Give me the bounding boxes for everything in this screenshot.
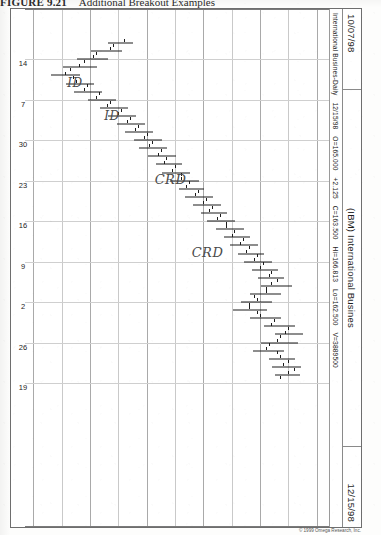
bar-high-low [193, 204, 221, 205]
ohlc-bar [250, 317, 281, 319]
ohlc-bar [261, 341, 298, 343]
ohlc-bar [244, 260, 272, 262]
ohlc-bar [179, 188, 205, 190]
bar-close-tick [263, 262, 264, 265]
ohlc-bar [207, 220, 235, 222]
bar-close-tick [147, 133, 148, 136]
ohlc-bar [264, 325, 295, 327]
bar-close-tick [167, 157, 168, 160]
quote-instrument: International Busines-Daily [333, 13, 340, 95]
bar-open-tick [257, 298, 258, 301]
quote-low: Lo=162.500 [333, 289, 340, 326]
annotation-crd-1: CRD [192, 246, 224, 261]
date-axis: 147302316922619 [11, 9, 25, 527]
gridline-vertical [25, 221, 329, 222]
bar-open-tick [135, 128, 136, 131]
bar-high-low [241, 302, 272, 303]
bar-close-tick [271, 271, 272, 274]
bar-open-tick [271, 323, 272, 326]
bar-open-tick [84, 88, 85, 91]
ohlc-bar [216, 228, 244, 230]
ohlc-bar [108, 42, 134, 44]
header-start-date: 10/07/98 [343, 9, 361, 90]
bar-open-tick [203, 201, 204, 204]
bar-close-tick [294, 368, 295, 371]
bar-high-low [233, 310, 267, 311]
credit-text: © 1999 Omega Research, Inc. [299, 528, 361, 533]
gridline-horizontal [288, 9, 289, 527]
bar-close-tick [220, 214, 221, 217]
chart-header: 10/07/98 (IBM) International Busines 12/… [342, 9, 361, 527]
ohlc-bar [156, 163, 182, 165]
bar-open-tick [110, 47, 111, 50]
bar-high-low [275, 374, 299, 375]
quote-volume: V=3889500 [333, 333, 340, 368]
bar-close-tick [269, 343, 270, 346]
bar-high-low [272, 366, 300, 367]
date-tick-label: 23 [19, 181, 27, 190]
ohlc-bar [125, 131, 153, 133]
bar-close-tick [70, 68, 71, 71]
ohlc-bar [253, 269, 279, 271]
date-tick-label: 16 [19, 221, 27, 230]
bar-close-tick [189, 181, 190, 184]
bar-open-tick [288, 371, 289, 374]
bar-open-tick [246, 250, 247, 253]
bar-high-low [253, 350, 284, 351]
bar-open-tick [150, 144, 151, 147]
quote-status-line: International Busines-Daily 12/15/98 O=1… [329, 9, 342, 527]
ohlc-bar [202, 212, 228, 214]
bar-close-tick [206, 198, 207, 201]
date-tick-label: 2 [21, 302, 25, 311]
bar-open-tick [249, 306, 250, 309]
bar-open-tick [164, 161, 165, 164]
bar-open-tick [277, 339, 278, 342]
bar-high-low [77, 59, 108, 60]
bar-high-low [250, 318, 281, 319]
ohlc-bar [63, 66, 97, 68]
quote-high: Hi=166.813 [333, 247, 340, 282]
bar-open-tick [107, 104, 108, 107]
bar-high-low [117, 123, 145, 124]
ohlc-bar [250, 293, 281, 295]
bar-high-low [185, 196, 213, 197]
bar-open-tick [93, 55, 94, 58]
bar-open-tick [209, 209, 210, 212]
ohlc-bar [233, 309, 267, 311]
bar-close-tick [280, 376, 281, 379]
bar-high-low [253, 269, 279, 270]
bar-open-tick [158, 153, 159, 156]
date-tick-label: 26 [19, 343, 27, 352]
bar-open-tick [144, 136, 145, 139]
date-tick-label: 7 [21, 100, 25, 109]
ohlc-bar [272, 366, 300, 368]
date-tick-label: 14 [19, 59, 27, 68]
ohlc-bar [88, 99, 116, 101]
bar-close-tick [249, 246, 250, 249]
header-symbol-name: (IBM) International Busines [347, 90, 358, 446]
ohlc-bar [117, 123, 145, 125]
ohlc-bar [230, 244, 258, 246]
figure-title: Additional Breakout Examples [79, 0, 215, 8]
ohlc-bar [238, 252, 264, 254]
gridline-horizontal [147, 9, 148, 527]
bar-close-tick [130, 117, 131, 120]
bar-close-tick [110, 101, 111, 104]
bar-close-tick [152, 141, 153, 144]
gridline-horizontal [203, 9, 204, 527]
price-plot-area: CRDCRDIDID 17016516015515014514013513012… [25, 9, 329, 527]
bar-open-tick [260, 314, 261, 317]
bar-close-tick [212, 206, 213, 209]
ohlc-bar [193, 204, 221, 206]
bar-close-tick [99, 92, 100, 95]
ohlc-bar [139, 147, 167, 149]
bar-high-low [125, 132, 153, 133]
bar-close-tick [198, 190, 199, 193]
bar-close-tick [96, 52, 97, 55]
bar-high-low [139, 148, 167, 149]
bar-close-tick [288, 327, 289, 330]
bar-close-tick [243, 238, 244, 241]
bar-open-tick [286, 331, 287, 334]
bar-high-low [270, 358, 296, 359]
ohlc-bar [134, 139, 162, 141]
